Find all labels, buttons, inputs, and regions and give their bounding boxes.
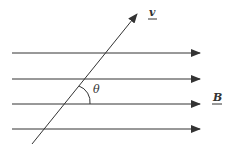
field-label: B: [212, 91, 222, 104]
angle-arc: [79, 86, 90, 104]
angle-label: θ: [93, 83, 100, 96]
velocity-label: v: [149, 6, 156, 19]
diagram-canvas: θ v B: [0, 0, 232, 150]
